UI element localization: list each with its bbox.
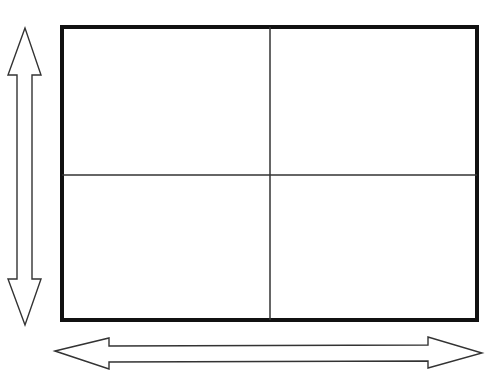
horizontal-double-arrow-icon xyxy=(55,337,482,369)
diagram-canvas xyxy=(0,0,493,376)
vertical-double-arrow-icon xyxy=(8,28,41,325)
